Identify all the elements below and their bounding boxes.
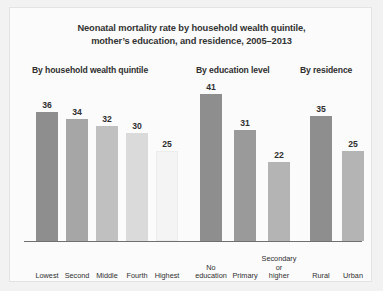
bar-value-label: 30 <box>119 121 155 131</box>
bar-value-label: 41 <box>193 82 229 92</box>
x-tick-label-line: Highest <box>145 272 189 281</box>
bar-secondary-or-higher: 22 <box>268 162 290 241</box>
bar-rect <box>268 162 290 241</box>
bar-highest: 25 <box>156 151 178 241</box>
bar-rect <box>126 133 148 241</box>
bar-rect <box>310 116 332 241</box>
bar-rect <box>234 130 256 241</box>
bar-rect <box>200 94 222 241</box>
bar-lowest: 36 <box>36 112 58 241</box>
bar-value-label: 31 <box>227 118 263 128</box>
bar-no-education: 41 <box>200 94 222 241</box>
bar-rect <box>96 126 118 241</box>
x-tick-label: Highest <box>145 272 189 281</box>
bar-middle: 32 <box>96 126 118 241</box>
bar-urban: 25 <box>342 151 364 241</box>
bar-rect <box>156 151 178 241</box>
bar-value-label: 22 <box>261 150 297 160</box>
bar-second: 34 <box>66 119 88 241</box>
bar-fourth: 30 <box>126 133 148 241</box>
x-tick-label: Secondaryorhigher <box>257 255 301 281</box>
bar-rect <box>342 151 364 241</box>
bar-rural: 35 <box>310 116 332 241</box>
plot-area: 36Lowest34Second32Middle30Fourth25Highes… <box>10 8 373 283</box>
x-tick-label-line: Urban <box>331 272 375 281</box>
bar-rect <box>36 112 58 241</box>
bar-primary: 31 <box>234 130 256 241</box>
bar-value-label: 35 <box>303 104 339 114</box>
x-axis-line <box>24 241 362 242</box>
bar-rect <box>66 119 88 241</box>
bar-value-label: 25 <box>335 139 371 149</box>
x-tick-label-line: higher <box>257 272 301 281</box>
chart-panel: Neonatal mortality rate by household wea… <box>9 7 372 282</box>
bar-value-label: 25 <box>149 139 185 149</box>
x-tick-label: Urban <box>331 272 375 281</box>
